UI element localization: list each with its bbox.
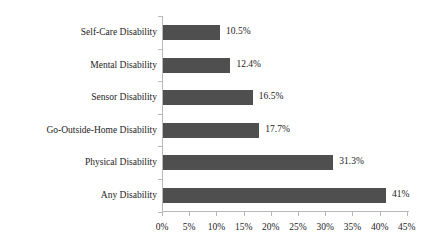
bar: [163, 155, 333, 170]
y-axis-tick: [158, 81, 162, 82]
bar-row: 31.3%: [162, 146, 408, 179]
y-axis-tick: [158, 49, 162, 50]
x-axis-tick: [162, 211, 163, 216]
bar-chart: Self-Care DisabilityMental DisabilitySen…: [0, 0, 433, 247]
x-axis-tick: [298, 211, 299, 216]
x-axis-tick-label: 0%: [156, 221, 169, 233]
x-axis-tick-label: 40%: [371, 221, 388, 233]
bar-row: 10.5%: [162, 16, 408, 49]
bar-value-label: 16.5%: [259, 89, 284, 104]
x-axis-tick: [407, 211, 408, 216]
x-axis-tick: [325, 211, 326, 216]
x-axis-tick: [189, 211, 190, 216]
x-axis-tick: [216, 211, 217, 216]
y-axis-tick: [158, 146, 162, 147]
plot-area: 10.5%12.4%16.5%17.7%31.3%41%: [162, 16, 408, 211]
category-label: Mental Disability: [0, 58, 157, 73]
bar: [163, 188, 386, 203]
bar-value-label: 17.7%: [265, 122, 290, 137]
x-axis-tick-label: 25%: [289, 221, 306, 233]
bar-value-label: 31.3%: [339, 154, 364, 169]
x-axis-tick-label: 35%: [344, 221, 361, 233]
category-label: Go-Outside-Home Disability: [0, 123, 157, 138]
bar-row: 12.4%: [162, 49, 408, 82]
bar-row: 16.5%: [162, 81, 408, 114]
category-label: Sensor Disability: [0, 90, 157, 105]
y-axis-tick: [158, 179, 162, 180]
bar: [163, 58, 230, 73]
x-axis-tick-label: 30%: [316, 221, 333, 233]
bar-value-label: 10.5%: [226, 24, 251, 39]
category-label: Physical Disability: [0, 155, 157, 170]
x-axis-tick: [271, 211, 272, 216]
bar-value-label: 41%: [392, 187, 409, 202]
bar: [163, 90, 253, 105]
x-axis-tick-label: 15%: [235, 221, 252, 233]
bar-value-label: 12.4%: [236, 57, 261, 72]
x-axis-tick: [352, 211, 353, 216]
y-axis-tick: [158, 16, 162, 17]
bar: [163, 25, 220, 40]
x-axis-tick: [244, 211, 245, 216]
category-label: Self-Care Disability: [0, 25, 157, 40]
x-axis-tick-label: 45%: [398, 221, 415, 233]
bar-row: 17.7%: [162, 114, 408, 147]
y-axis-tick: [158, 114, 162, 115]
category-label: Any Disability: [0, 188, 157, 203]
x-axis-tick-label: 5%: [183, 221, 196, 233]
bar-row: 41%: [162, 179, 408, 212]
x-axis-tick-label: 10%: [208, 221, 225, 233]
bar: [163, 123, 259, 138]
x-axis-tick: [380, 211, 381, 216]
x-axis-tick-label: 20%: [262, 221, 279, 233]
